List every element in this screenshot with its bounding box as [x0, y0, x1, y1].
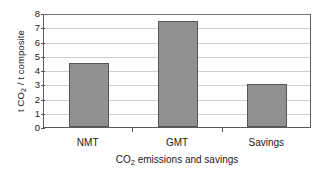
- y-axis-tick-label: 7: [26, 22, 40, 34]
- x-axis-category-labels: NMTGMTSavings: [43, 136, 311, 150]
- x-axis-title-subscript: 2: [131, 158, 135, 167]
- bar-chart-figure: t CO2 / t composite 012345678 NMTGMTSavi…: [0, 0, 324, 173]
- y-axis-title-suffix: / t composite: [15, 30, 26, 88]
- y-axis-tick-mark: [41, 114, 45, 115]
- y-axis-tick-mark: [41, 14, 45, 15]
- x-axis-category-label: Savings: [222, 136, 311, 150]
- y-axis-tick-mark: [41, 57, 45, 58]
- x-axis-category-label: NMT: [43, 136, 132, 150]
- gridline: [44, 14, 310, 15]
- y-axis-tick-mark: [41, 71, 45, 72]
- x-axis-title-suffix: emissions and savings: [135, 154, 238, 165]
- x-axis-tick-mark: [222, 128, 223, 132]
- plot-area: [43, 14, 311, 128]
- y-axis-tick-label: 2: [26, 94, 40, 106]
- y-axis-tick-label: 1: [26, 108, 40, 120]
- y-axis-tick-label: 4: [26, 65, 40, 77]
- bar-gmt: [158, 21, 198, 127]
- y-axis-tick-labels: 012345678: [26, 14, 40, 128]
- y-axis-tick-label: 8: [26, 8, 40, 20]
- y-axis-tick-mark: [41, 43, 45, 44]
- y-axis-tick-mark: [41, 28, 45, 29]
- bar-nmt: [69, 63, 109, 127]
- x-axis-tick-mark: [132, 128, 133, 132]
- y-axis-tick-mark: [41, 128, 45, 129]
- y-axis-tick-label: 5: [26, 51, 40, 63]
- x-axis-category-label: GMT: [132, 136, 221, 150]
- y-axis-tick-mark: [41, 100, 45, 101]
- y-axis-tick-mark: [41, 85, 45, 86]
- y-axis-tick-label: 0: [26, 122, 40, 134]
- y-axis-tick-label: 6: [26, 37, 40, 49]
- y-axis-title-prefix: t CO: [15, 92, 26, 112]
- y-axis-tick-label: 3: [26, 79, 40, 91]
- x-axis-title-prefix: CO: [116, 154, 131, 165]
- bar-savings: [247, 84, 287, 127]
- x-axis-title: CO2 emissions and savings: [43, 153, 311, 167]
